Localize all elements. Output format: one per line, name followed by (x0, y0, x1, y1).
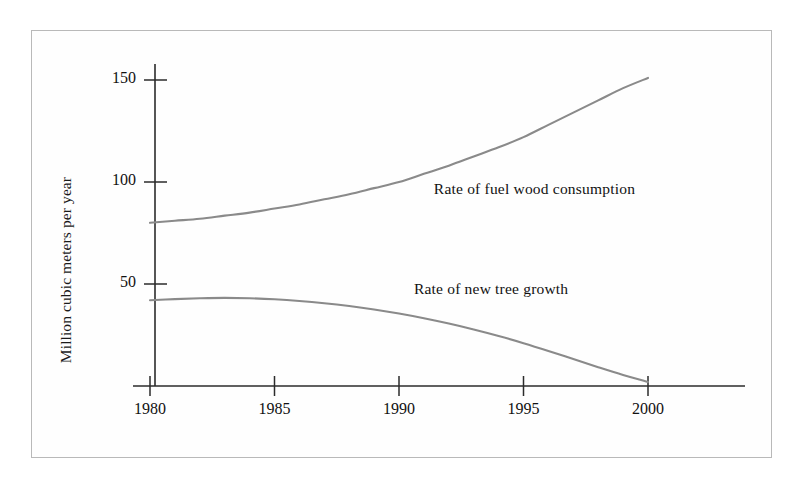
series-line-fuel-wood-consumption (150, 78, 648, 223)
x-tick-label-2000: 2000 (608, 400, 688, 418)
series-annotation-new-tree-growth: Rate of new tree growth (414, 280, 568, 298)
axes (133, 64, 745, 386)
x-tick-label-1995: 1995 (484, 400, 564, 418)
series-annotation-fuel-wood-consumption: Rate of fuel wood consumption (434, 180, 635, 198)
x-tick-label-1980: 1980 (110, 400, 190, 418)
series-line-new-tree-growth (150, 298, 648, 382)
y-axis-title: Million cubic meters per year (57, 0, 75, 140)
x-tick-label-1985: 1985 (235, 400, 315, 418)
x-tick-label-1990: 1990 (359, 400, 439, 418)
y-tick-label-100: 100 (90, 171, 136, 189)
y-tick-label-50: 50 (90, 273, 136, 291)
figure-container: Million cubic meters per year 50100150 1… (0, 0, 799, 487)
data-series-group (150, 78, 648, 382)
y-tick-label-150: 150 (90, 69, 136, 87)
y-axis-title-text: Million cubic meters per year (57, 140, 75, 400)
